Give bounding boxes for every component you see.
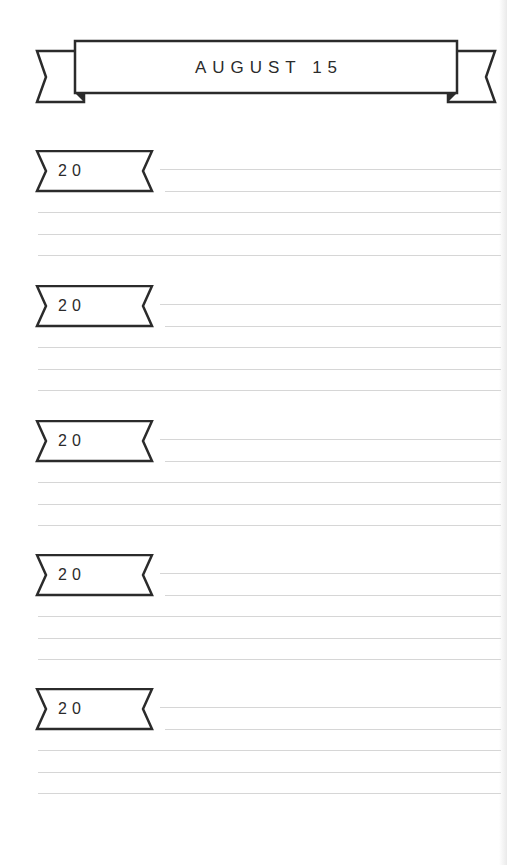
writing-line[interactable] [38,212,501,213]
writing-line[interactable] [38,616,501,617]
year-entry-section: 20 [0,420,507,554]
writing-line[interactable] [160,304,501,305]
writing-line[interactable] [160,573,501,574]
writing-line[interactable] [38,347,501,348]
year-label: 20 [58,697,86,721]
writing-line[interactable] [38,772,501,773]
year-entry-section: 20 [0,150,507,284]
journal-page: AUGUST 15 20 20 20 [0,0,507,865]
year-entry-section: 20 [0,688,507,822]
writing-line[interactable] [165,191,501,192]
writing-line[interactable] [38,504,501,505]
writing-line[interactable] [160,707,501,708]
writing-line[interactable] [160,169,501,170]
writing-line[interactable] [165,461,501,462]
writing-line[interactable] [38,234,501,235]
year-label: 20 [58,159,86,183]
writing-line[interactable] [38,793,501,794]
writing-line[interactable] [38,390,501,391]
year-label: 20 [58,294,86,318]
writing-line[interactable] [38,255,501,256]
writing-line[interactable] [165,326,501,327]
writing-line[interactable] [160,439,501,440]
year-entry-section: 20 [0,285,507,419]
writing-line[interactable] [165,595,501,596]
writing-line[interactable] [38,638,501,639]
writing-line[interactable] [38,525,501,526]
writing-line[interactable] [38,482,501,483]
page-title: AUGUST 15 [75,41,457,93]
writing-line[interactable] [165,729,501,730]
year-entry-section: 20 [0,554,507,688]
page-edge-shadow [499,0,507,865]
writing-line[interactable] [38,750,501,751]
writing-line[interactable] [38,369,501,370]
year-label: 20 [58,429,86,453]
writing-line[interactable] [38,659,501,660]
year-label: 20 [58,563,86,587]
